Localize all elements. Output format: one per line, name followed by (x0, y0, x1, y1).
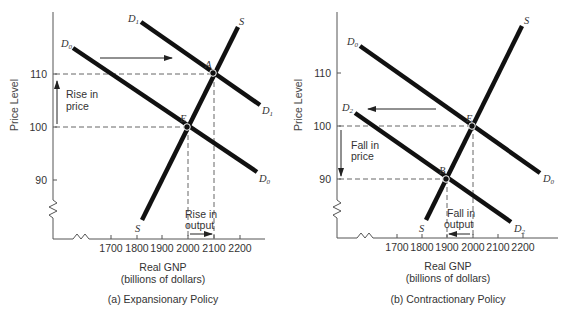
y-tick-110: 110 (30, 68, 47, 80)
x-tick-2000: 2000 (461, 241, 485, 253)
x-tick-1800: 1800 (125, 242, 149, 254)
equilibrium-point-a (210, 70, 217, 77)
demand-curve-d0 (73, 48, 257, 172)
x-tick-1900: 1900 (435, 241, 459, 253)
x-axis (53, 234, 265, 239)
label-d1-top: D1 (127, 13, 139, 26)
x-tick-1700: 1700 (99, 242, 123, 254)
x-axis-subtitle: (billions of dollars) (406, 272, 491, 284)
point-label-e: E (465, 113, 473, 124)
y-tick-100: 100 (29, 121, 47, 133)
x-axis-title: Real GNP (424, 260, 471, 272)
label-d0-top: D0 (60, 38, 73, 51)
rise-in-price-note: Rise in (66, 88, 98, 100)
x-tick-1700: 1700 (385, 241, 409, 253)
x-tick-2100: 2100 (486, 241, 510, 253)
label-s-top: S (524, 15, 530, 26)
rise-in-output-note-line2: output (185, 219, 214, 231)
x-tick-2200: 2200 (228, 242, 252, 254)
y-axis-title: Price Level (8, 79, 20, 131)
y-axis (333, 12, 341, 238)
point-label-a: A (204, 59, 212, 70)
y-tick-90: 90 (35, 174, 47, 186)
fall-in-output-note-line2: output (444, 218, 473, 230)
label-d0-bottom: D0 (258, 173, 271, 186)
y-tick-90: 90 (319, 173, 331, 185)
y-tick-100: 100 (313, 120, 331, 132)
label-d2-top: D2 (341, 102, 354, 115)
label-d0-top: D0 (346, 36, 359, 49)
equilibrium-point-e (184, 124, 191, 131)
x-tick-2200: 2200 (511, 241, 535, 253)
label-s-bottom: S (135, 223, 141, 234)
rise-in-price-note-line2: price (66, 100, 89, 112)
x-axis-title: Real GNP (139, 261, 186, 273)
panel-a-expansionary: Price Level 110 100 90 1700 1800 1900 20… (8, 12, 273, 305)
point-label-b: B (439, 165, 446, 176)
label-d0-bottom: D0 (542, 173, 555, 186)
x-tick-1800: 1800 (410, 241, 434, 253)
x-tick-2000: 2000 (176, 242, 200, 254)
panel-caption-b: (b) Contractionary Policy (391, 293, 507, 305)
x-tick-2100: 2100 (202, 242, 226, 254)
label-d2-bottom: D2 (513, 223, 526, 236)
y-axis-title: Price Level (292, 79, 304, 131)
point-label-e: E (179, 113, 187, 124)
label-d1-bottom: D1 (261, 105, 273, 118)
y-axis (49, 12, 57, 239)
equilibrium-point-b (443, 176, 450, 183)
demand-curve-d1 (141, 22, 260, 105)
y-tick-110: 110 (314, 67, 331, 79)
label-s-top: S (239, 16, 245, 27)
x-axis-subtitle: (billions of dollars) (121, 273, 206, 285)
x-tick-1900: 1900 (150, 242, 174, 254)
label-s-bottom: S (419, 223, 425, 234)
fall-in-price-note-line2: price (351, 150, 374, 162)
panel-caption-a: (a) Expansionary Policy (108, 293, 219, 305)
panel-b-contractionary: Price Level 110 100 90 1700 1800 1900 20… (292, 12, 558, 305)
